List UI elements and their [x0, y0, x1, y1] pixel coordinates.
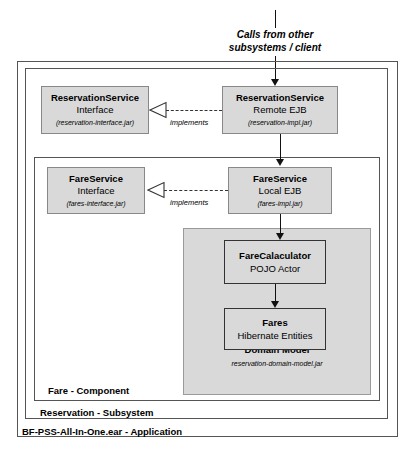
node-artifact: (fares-impl.jar)	[257, 198, 302, 209]
frame-label-application: BF-PSS-All-In-One.ear - Application	[22, 426, 182, 437]
component-diagram: Calls from other subsystems / client BF-…	[0, 0, 412, 455]
node-fares-entities[interactable]: Fares Hibernate Entities	[224, 308, 326, 350]
connector-fare-ejb-to-calculator	[280, 214, 281, 234]
node-title: ReservationService	[51, 92, 139, 104]
connector-calculator-to-fares-arrowhead-icon	[271, 301, 279, 308]
frame-label-subsystem: Reservation - Subsystem	[40, 407, 154, 418]
node-reservation-service-interface[interactable]: ReservationService Interface (reservatio…	[41, 86, 149, 134]
node-fare-service-interface[interactable]: FareService Interface (fares-interface.j…	[47, 167, 145, 214]
incoming-call-caption-line1: Calls from other	[195, 28, 355, 41]
node-title: ReservationService	[236, 92, 324, 104]
frame-label-component: Fare - Component	[48, 385, 129, 396]
domain-model-artifact: reservation-domain-model.jar	[184, 360, 370, 367]
implements-triangle-reservation-icon	[149, 101, 167, 119]
incoming-call-caption: Calls from other subsystems / client	[195, 28, 355, 54]
node-subtitle: Remote EJB	[253, 104, 306, 116]
node-subtitle: Hibernate Entities	[238, 329, 313, 342]
node-artifact: (fares-interface.jar)	[66, 198, 125, 209]
node-subtitle: Interface	[77, 104, 114, 116]
node-subtitle: POJO Actor	[250, 262, 300, 275]
implements-label-fare: implements	[170, 198, 208, 207]
implements-dashline-reservation	[166, 110, 222, 111]
node-artifact: (reservation-interface.jar)	[56, 117, 134, 128]
node-subtitle: Local EJB	[259, 185, 302, 197]
node-fare-calculator[interactable]: FareCalaculator POJO Actor	[224, 240, 326, 284]
node-artifact: (reservation-impl.jar)	[248, 117, 312, 128]
connector-fare-ejb-to-calculator-arrowhead-icon	[276, 233, 284, 240]
node-title: FareService	[69, 173, 123, 185]
node-title: FareService	[253, 173, 307, 185]
incoming-call-caption-line2: subsystems / client	[195, 41, 355, 54]
connector-res-ejb-to-fare-ejb-arrowhead-icon	[276, 159, 284, 166]
connector-calculator-to-fares	[275, 284, 276, 302]
node-title: FareCalaculator	[239, 249, 311, 262]
node-title: Fares	[262, 316, 287, 329]
node-reservation-service-remote-ejb[interactable]: ReservationService Remote EJB (reservati…	[222, 86, 338, 134]
implements-triangle-fare-icon	[147, 181, 165, 199]
connector-res-ejb-to-fare-ejb	[280, 134, 281, 160]
implements-label-reservation: implements	[170, 118, 208, 127]
incoming-call-line-top	[275, 10, 276, 28]
implements-dashline-fare	[164, 190, 228, 191]
node-fare-service-local-ejb[interactable]: FareService Local EJB (fares-impl.jar)	[228, 167, 332, 214]
node-subtitle: Interface	[78, 185, 115, 197]
